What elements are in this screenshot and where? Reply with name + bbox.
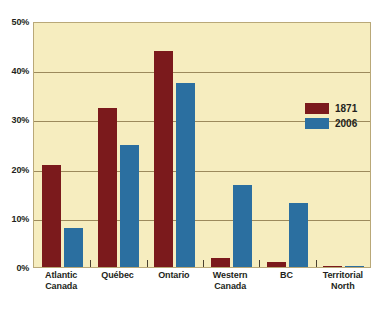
bar-chart: 0%10%20%30%40%50% 1871 2006 AtlanticCana…: [0, 0, 378, 309]
y-axis: 0%10%20%30%40%50%: [0, 0, 32, 309]
bar: [267, 262, 286, 267]
legend: 1871 2006: [305, 103, 357, 129]
bar: [64, 228, 83, 267]
x-axis: AtlanticCanadaQuébecOntarioWesternCanada…: [33, 270, 371, 309]
bar: [289, 203, 308, 267]
bar: [42, 165, 61, 267]
bar: [154, 51, 173, 267]
legend-swatch-1871: [305, 103, 329, 114]
bar: [98, 108, 117, 267]
y-tick-label: 20%: [12, 165, 29, 175]
bar: [345, 266, 364, 267]
bar: [176, 83, 195, 267]
legend-label-2006: 2006: [335, 119, 357, 129]
bar: [211, 258, 230, 267]
plot-area: 1871 2006: [33, 22, 371, 268]
bar: [120, 145, 139, 268]
legend-label-1871: 1871: [335, 104, 357, 114]
legend-item-2006: 2006: [305, 118, 357, 129]
bar: [323, 266, 342, 267]
y-tick-label: 10%: [12, 214, 29, 224]
bars-layer: [34, 23, 370, 267]
y-tick-label: 50%: [12, 17, 29, 27]
y-tick-label: 30%: [12, 115, 29, 125]
legend-swatch-2006: [305, 118, 329, 129]
legend-item-1871: 1871: [305, 103, 357, 114]
y-tick-label: 40%: [12, 66, 29, 76]
bar: [233, 185, 252, 267]
x-tick-label: TerritorialNorth: [308, 270, 378, 292]
